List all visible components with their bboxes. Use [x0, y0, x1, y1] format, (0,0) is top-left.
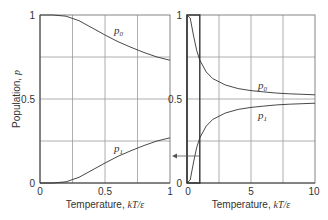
left-y-tick-05: 0.5 [21, 94, 35, 105]
left-p1-label: p1 [113, 142, 123, 156]
right-p0-label: p0 [257, 79, 268, 93]
right-x-axis-label: Temperature, kT/ε [212, 199, 290, 210]
left-x-axis-label: Temperature, kT/ε [66, 199, 144, 210]
left-y-tick-0: 0 [29, 178, 35, 189]
right-x-tick-10: 10 [308, 186, 320, 197]
right-y-tick-0: 0 [176, 178, 182, 189]
left-y-tick-1: 1 [29, 10, 35, 21]
left-x-tick-1: 1 [167, 186, 173, 197]
left-panel: p0 p1 1 0.5 0 0 0.5 1 Population, p Temp… [11, 10, 173, 210]
left-grid [40, 15, 170, 183]
left-x-tick-0: 0 [37, 186, 43, 197]
right-panel: p0 p1 1 0.5 0 0 5 10 Temperature, kT/ε [168, 10, 320, 210]
left-x-tick-05: 0.5 [98, 186, 112, 197]
right-x-tick-5: 5 [248, 186, 254, 197]
right-p1-label: p1 [257, 109, 267, 123]
right-x-tick-0: 0 [185, 186, 191, 197]
population-chart: p0 p1 1 0.5 0 0 0.5 1 Population, p Temp… [0, 0, 328, 220]
right-y-tick-1: 1 [176, 10, 182, 21]
right-y-tick-05: 0.5 [168, 94, 182, 105]
left-p0-label: p0 [113, 24, 124, 38]
arrow-left-icon [172, 154, 177, 159]
y-axis-label: Population, p [11, 70, 22, 128]
right-grid [187, 15, 315, 183]
